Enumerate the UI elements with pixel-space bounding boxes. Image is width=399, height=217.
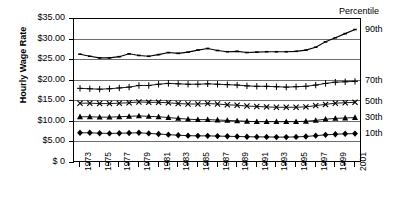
data-point-marker [352, 114, 358, 120]
data-point-marker [106, 86, 112, 92]
data-point-marker [303, 83, 309, 89]
data-point-marker [244, 133, 250, 139]
data-point-marker [352, 78, 358, 84]
data-point-marker [116, 130, 122, 136]
x-axis-tick [325, 162, 326, 166]
x-axis-tick [354, 162, 355, 167]
data-point-marker [293, 84, 299, 90]
chart-container: Hourly Wage Rate Percentile $35.00$30.00… [0, 0, 399, 217]
x-axis-tick [197, 162, 198, 167]
y-axis-tick-label: $10.00 [37, 115, 65, 125]
data-point-marker [234, 82, 240, 88]
data-point-marker [342, 131, 348, 137]
x-axis-tick [236, 162, 237, 167]
legend-label-30th: 30th [365, 112, 383, 122]
x-axis-tick [79, 162, 80, 167]
legend-label-90th: 90th [365, 24, 383, 34]
x-axis-tick [167, 162, 168, 166]
data-point-marker [234, 133, 240, 139]
data-point-marker [156, 81, 162, 87]
y-axis-tick-label: $15.00 [37, 94, 65, 104]
data-point-marker [185, 132, 191, 138]
data-point-marker [97, 130, 103, 136]
data-point-marker [342, 79, 348, 85]
series-30th [77, 113, 358, 124]
legend-label-50th: 50th [365, 96, 383, 106]
x-axis-tick [177, 162, 178, 167]
data-point-marker [264, 83, 270, 89]
data-point-marker [303, 133, 309, 139]
data-point-marker [313, 132, 319, 138]
data-point-marker [126, 130, 132, 136]
series-line [80, 30, 355, 58]
x-axis-tick [256, 162, 257, 167]
data-point-marker [195, 81, 201, 87]
x-axis-tick [266, 162, 267, 166]
data-point-marker [97, 86, 103, 92]
data-point-marker [283, 134, 289, 140]
x-axis-tick [285, 162, 286, 166]
data-point-marker [323, 132, 329, 138]
data-point-marker [185, 81, 191, 87]
y-axis-tick-label: $5.00 [42, 135, 65, 145]
data-point-marker [146, 82, 152, 88]
x-axis-tick [138, 162, 139, 167]
x-axis-tick [128, 162, 129, 166]
data-point-marker [156, 131, 162, 137]
data-point-marker [323, 80, 329, 86]
x-axis-tick [275, 162, 276, 167]
data-point-marker [205, 81, 211, 87]
data-point-marker [165, 80, 171, 86]
data-point-marker [264, 134, 270, 140]
x-axis-tick [99, 162, 100, 167]
x-axis-tick [89, 162, 90, 166]
data-point-marker [352, 130, 358, 136]
data-point-marker [116, 85, 122, 91]
x-axis-tick [226, 162, 227, 166]
data-point-marker [126, 84, 132, 90]
series-70th [77, 78, 358, 92]
y-axis-title: Hourly Wage Rate [18, 10, 28, 120]
data-point-marker [274, 134, 280, 140]
x-axis-tick [305, 162, 306, 166]
x-axis-tick [187, 162, 188, 166]
x-axis-tick [148, 162, 149, 166]
plot-area [73, 18, 360, 162]
x-axis-tick [246, 162, 247, 166]
data-point-marker [136, 113, 142, 119]
series-lines [74, 18, 361, 162]
x-axis-tick [344, 162, 345, 166]
x-axis-tick [315, 162, 316, 167]
y-axis-tick-label: $20.00 [37, 74, 65, 84]
legend-label-70th: 70th [365, 75, 383, 85]
plot-right-border [360, 18, 361, 162]
y-axis-tick-label: $ 0 [52, 156, 65, 166]
x-axis-tick [217, 162, 218, 167]
data-point-marker [313, 82, 319, 88]
x-axis-tick [158, 162, 159, 167]
y-axis-tick [69, 162, 74, 163]
y-axis-tick-label: $35.00 [37, 12, 65, 22]
x-axis-tick [118, 162, 119, 167]
x-axis-tick [207, 162, 208, 166]
data-point-marker [77, 130, 83, 136]
data-point-marker [77, 85, 83, 91]
data-point-marker [205, 133, 211, 139]
data-point-marker [332, 131, 338, 137]
data-point-marker [293, 134, 299, 140]
series-50th [77, 99, 357, 110]
data-point-marker [244, 83, 250, 89]
data-point-marker [107, 130, 113, 136]
data-point-marker [215, 81, 221, 87]
data-point-marker [136, 130, 142, 136]
data-point-marker [136, 82, 142, 88]
y-axis-tick-label: $25.00 [37, 53, 65, 63]
data-point-marker [332, 79, 338, 85]
y-axis-tick-label: $30.00 [37, 33, 65, 43]
data-point-marker [165, 131, 171, 137]
data-point-marker [215, 133, 221, 139]
legend-title: Percentile [339, 6, 379, 16]
data-point-marker [175, 81, 181, 87]
x-axis-tick [108, 162, 109, 166]
data-point-marker [273, 84, 279, 90]
